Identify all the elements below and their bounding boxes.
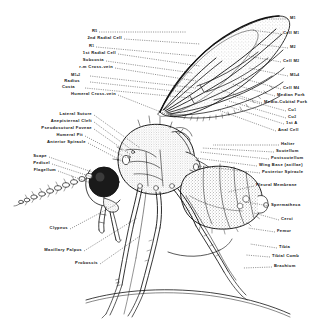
head [14, 167, 121, 242]
label-cell-m1: Cell M1 [283, 31, 299, 35]
label-first-radial-cell: 1st Radial Cell [83, 51, 116, 55]
label-scape: Scape [33, 154, 47, 158]
label-anterior-spiracle: Anterior Spiracle [47, 140, 86, 144]
label-media: M1+2 [71, 73, 80, 77]
label-cell-m4: Cell M4 [283, 86, 299, 90]
label-subscript-r1: 1 [92, 44, 94, 48]
label-proboscis: Proboscis [75, 261, 98, 265]
leader-1rc [118, 54, 200, 66]
leader-cly [70, 205, 115, 229]
label-r-m-cross-vein: r-m Cross-vein [79, 65, 113, 69]
label-pedicel: Pedicel [33, 161, 50, 165]
label-m1: M1 [290, 16, 296, 20]
label-anepisternal-cleft: Anepisternal Cleft [51, 119, 92, 123]
label-humeral-cross-vein: Humeral Cross-vein [71, 92, 116, 96]
label-subscript-r5: 5 [95, 29, 97, 33]
label-subscript-cu1: 1 [294, 108, 296, 112]
label-subcosta: Subcosta [83, 58, 104, 62]
label-subscript-cell-m4: 4 [297, 86, 299, 90]
label-halter: Halter [281, 142, 295, 146]
label-tibia: Tibia [279, 245, 290, 249]
label-flagellum: Flagellum [34, 168, 56, 172]
label-subscript-cell-m2: 2 [297, 59, 299, 63]
label-femur: Femur [277, 229, 291, 233]
leader-fem [248, 228, 275, 232]
label-subscript-m1: 1 [294, 16, 296, 20]
label-postscutellum: Postscutellum [271, 156, 304, 160]
wing [160, 16, 290, 121]
label-clypeus: Clypeus [50, 226, 68, 230]
label-cerci: Cerci [281, 217, 293, 221]
leader-tib [250, 244, 277, 248]
label-anal-cell: Anal Cell [278, 128, 299, 132]
leader-psc [200, 152, 269, 159]
label-radius: Radius [64, 79, 80, 83]
leader-tcm [246, 255, 270, 257]
label-pleural-membrane: Pleural Membrane [256, 183, 297, 187]
leader-bra [243, 267, 272, 268]
label-subscript-m2: 2 [294, 45, 296, 49]
label-r1: R1 [89, 44, 94, 48]
label-first-a: 1st A [286, 121, 298, 125]
label-second-radial-cell: 2nd Radial Cell [87, 36, 122, 40]
leader-sc [106, 61, 193, 73]
label-posterior-spiracle: Posterior Spiracle [262, 170, 303, 174]
antenna [14, 173, 92, 206]
label-median-fork: Median Fork [277, 93, 305, 97]
label-medio-cubital-fork: Medio-Cubital Fork [264, 100, 307, 104]
leader-anc [218, 110, 276, 131]
label-cell-m2: Cell M2 [283, 59, 299, 63]
label-cu1: Cu1 [288, 108, 296, 112]
maxillary-palpus-shape [99, 206, 106, 233]
leader-scu [202, 148, 274, 152]
label-pseudosutural-foveae: Pseudosutural Foveae [41, 126, 92, 130]
label-humeral-pit: Humeral Pit [56, 133, 83, 137]
label-brachium: Brachium [274, 264, 296, 268]
anatomical-figure: R52nd Radial CellR11st Radial CellSubcos… [0, 0, 325, 325]
label-cu2: Cu2 [288, 115, 296, 119]
label-subscript-m3-4: 3+4 [294, 73, 299, 77]
abdomen [180, 164, 268, 234]
label-tibial-comb: Tibial Comb [272, 254, 299, 258]
label-m2: M2 [290, 45, 296, 49]
label-maxillary-palpus: Maxillary Palpus [44, 248, 82, 252]
leader-2rc [124, 39, 200, 44]
label-m3-4: M3+4 [290, 73, 299, 77]
label-lateral-suture: Lateral Suture [60, 112, 92, 116]
label-subscript-cu2: 2 [294, 115, 296, 119]
label-wing-base: Wing Base (axillae) [259, 163, 303, 167]
label-r5: R5 [92, 29, 97, 33]
label-scutellum: Scutellum [276, 149, 299, 153]
label-costa: Costa [62, 85, 75, 89]
label-spermatheca: Spermatheca [271, 203, 301, 207]
label-subscript-cell-m1: 1 [297, 31, 299, 35]
